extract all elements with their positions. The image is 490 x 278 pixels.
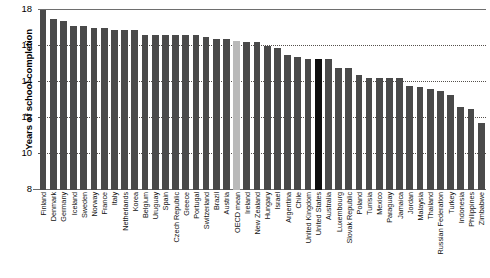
bar <box>91 28 98 190</box>
bar-slot <box>333 9 343 190</box>
x-label-slot: Slovak Republic <box>344 191 354 278</box>
x-label-slot: Luxembourg <box>333 191 343 278</box>
x-label-slot: OECD mean <box>232 191 242 278</box>
bar-slot <box>354 9 364 190</box>
x-tick-label: France <box>100 192 109 214</box>
x-label-slot: Italy <box>109 191 119 278</box>
bar <box>417 87 424 190</box>
x-tick-label: Czech Republic <box>171 192 180 242</box>
bar <box>182 35 189 190</box>
bar-slot <box>476 9 486 190</box>
bar <box>447 95 454 190</box>
x-label-slot: Germany <box>58 191 68 278</box>
x-label-slot: Philippines <box>466 191 476 278</box>
bar <box>427 89 434 190</box>
x-tick-label: Chile <box>293 192 302 208</box>
x-label-slot: Denmark <box>48 191 58 278</box>
bar-slot <box>364 9 374 190</box>
bar-chart: Years of school completion 81012141618 F… <box>0 0 490 278</box>
y-tick-label-12: 12 <box>8 111 32 122</box>
x-tick-label: Austria <box>222 192 231 214</box>
bar-slot <box>191 9 201 190</box>
x-tick-label: Poland <box>354 192 363 214</box>
bar-slot <box>395 9 405 190</box>
bar-slot <box>201 9 211 190</box>
bar <box>152 35 159 190</box>
x-label-slot: France <box>99 191 109 278</box>
x-tick-label: Denmark <box>49 192 58 221</box>
x-label-slot: Portugal <box>191 191 201 278</box>
bar-slot <box>344 9 354 190</box>
x-label-slot: Hungary <box>262 191 272 278</box>
bar-slot <box>313 9 323 190</box>
bar-slot <box>160 9 170 190</box>
x-label-slot: Ireland <box>242 191 252 278</box>
bar-slot <box>48 9 58 190</box>
x-tick-label: Finland <box>39 192 48 216</box>
x-label-slot: Russian Federation <box>435 191 445 278</box>
x-tick-label: Thailand <box>426 192 435 220</box>
x-label-slot: Jordan <box>405 191 415 278</box>
x-tick-label: Norway <box>90 192 99 216</box>
x-tick-label: Germany <box>59 192 68 222</box>
bar-slot <box>140 9 150 190</box>
x-label-slot: New Zealand <box>252 191 262 278</box>
x-tick-label: Argentina <box>283 192 292 223</box>
bar <box>131 30 138 190</box>
bar-slot <box>466 9 476 190</box>
x-tick-label: Slovak Republic <box>344 192 353 244</box>
bar <box>50 19 57 190</box>
x-tick-label: Switzerland <box>202 192 211 229</box>
x-tick-label: Tunisia <box>365 192 374 215</box>
bar-slot <box>211 9 221 190</box>
x-label-slot: Spain <box>160 191 170 278</box>
x-label-slot: United States <box>313 191 323 278</box>
bar <box>264 46 271 190</box>
bar <box>172 35 179 190</box>
x-tick-label: Australia <box>324 192 333 220</box>
x-tick-label: Mexico <box>375 192 384 215</box>
bar-slot <box>38 9 48 190</box>
y-tick-label-14: 14 <box>8 75 32 86</box>
x-label-slot: Australia <box>323 191 333 278</box>
bar-slot <box>323 9 333 190</box>
x-label-slot: Austria <box>221 191 231 278</box>
bar-slot <box>446 9 456 190</box>
x-label-slot: Switzerland <box>201 191 211 278</box>
bar <box>142 35 149 190</box>
bar-slot <box>252 9 262 190</box>
x-tick-label: Ireland <box>242 192 251 214</box>
y-tick-label-18: 18 <box>8 3 32 14</box>
bar-slot <box>221 9 231 190</box>
bar <box>284 55 291 190</box>
bar <box>366 78 373 190</box>
bar-slot <box>293 9 303 190</box>
bars-container <box>38 9 486 190</box>
bar-slot <box>109 9 119 190</box>
bar-slot <box>272 9 282 190</box>
x-tick-label: Portugal <box>191 192 200 219</box>
x-label-slot: Iceland <box>69 191 79 278</box>
bar <box>315 59 322 190</box>
x-label-slot: Tunisia <box>364 191 374 278</box>
x-label-slot: Malaysia <box>415 191 425 278</box>
x-label-slot: Sweden <box>79 191 89 278</box>
bar <box>335 68 342 190</box>
x-label-slot: United Kingdom <box>303 191 313 278</box>
x-tick-label: OECD mean <box>232 192 241 233</box>
x-label-slot: Chile <box>293 191 303 278</box>
bar <box>254 42 261 190</box>
x-tick-label: Israel <box>273 192 282 210</box>
x-label-slot: Zimbabwe <box>476 191 486 278</box>
x-tick-label: Spain <box>161 192 170 210</box>
bar-slot <box>150 9 160 190</box>
x-label-slot: Thailand <box>425 191 435 278</box>
x-tick-label: Hungary <box>263 192 272 219</box>
x-label-slot: Uruguay <box>150 191 160 278</box>
x-tick-label: Italy <box>110 192 119 205</box>
x-tick-label: Belgium <box>140 192 149 218</box>
bar-slot <box>456 9 466 190</box>
bar <box>356 75 363 190</box>
bar-slot <box>89 9 99 190</box>
x-tick-label: Brazil <box>212 192 221 210</box>
